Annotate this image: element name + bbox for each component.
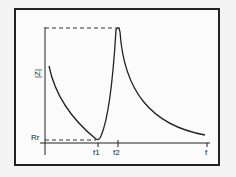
f2-label: f2 — [113, 148, 120, 157]
f-label: f — [205, 148, 207, 157]
impedance-curve — [49, 28, 205, 140]
rr-label: Rr — [31, 133, 39, 142]
y-axis-label: |Z| — [33, 69, 42, 78]
f1-label: f1 — [93, 148, 100, 157]
